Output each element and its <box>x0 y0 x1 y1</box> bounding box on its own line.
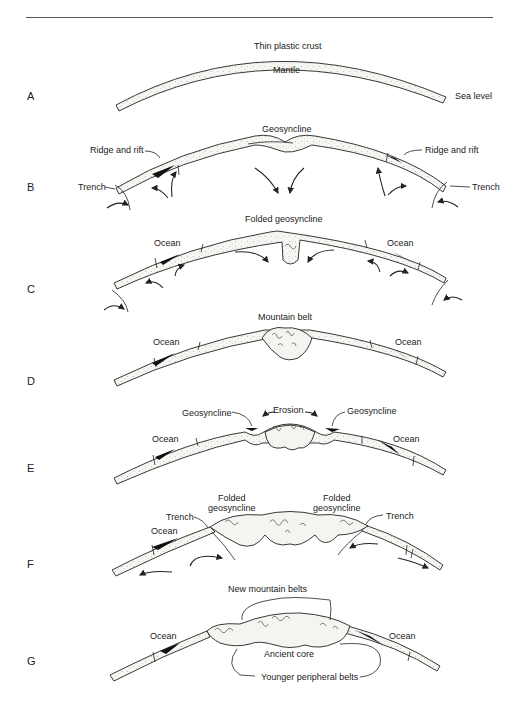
mountain-belt <box>207 613 350 648</box>
mantle-current-arrow <box>146 282 163 288</box>
plate-tectonics-diagram: A Thin plastic crust Mantle Sea level B … <box>0 0 532 711</box>
label-folded-geosyncline: Folded geosyncline <box>245 214 323 224</box>
label-folded-left-2: geosyncline <box>208 503 256 513</box>
panel-letter-g: G <box>27 655 36 667</box>
label-trench-right: Trench <box>472 182 500 192</box>
crust-band <box>362 525 443 570</box>
label-geosyncline-left: Geosyncline <box>182 408 232 418</box>
leader-line <box>232 412 252 426</box>
label-mountain-belt: Mountain belt <box>258 312 313 322</box>
leader-line <box>332 412 345 426</box>
leader-line <box>105 187 115 189</box>
mantle-current-arrow <box>388 186 406 195</box>
geosyncline-deposit <box>325 428 340 432</box>
mantle-current-arrow <box>172 172 177 197</box>
panel-letter-e: E <box>27 462 34 474</box>
geosyncline-deposit <box>245 428 258 431</box>
leader-line <box>366 515 383 524</box>
panel-a: A Thin plastic crust Mantle Sea level <box>27 41 492 111</box>
panel-letter-c: C <box>27 283 35 295</box>
leader-line <box>404 150 422 155</box>
mantle-current-arrow <box>444 297 462 300</box>
trench-line <box>432 280 448 305</box>
mantle-current-arrow <box>104 306 124 310</box>
panel-f: F Folded geosyncline Folded geosyncline … <box>27 493 443 576</box>
label-ocean-right: Ocean <box>395 337 422 347</box>
mountain-belt <box>265 425 315 450</box>
mantle-current-arrow <box>152 188 168 198</box>
label-thin-plastic-crust: Thin plastic crust <box>254 41 322 51</box>
panel-letter-d: D <box>27 375 35 387</box>
leader-line <box>145 151 160 158</box>
mantle-current-arrow <box>140 571 172 575</box>
panel-g: G New mountain belts Ocean Ocean Ancient… <box>27 584 440 682</box>
label-ancient-core: Ancient core <box>264 649 314 659</box>
label-erosion: Erosion <box>273 405 304 415</box>
label-geosyncline: Geosyncline <box>262 124 312 134</box>
label-trench-left: Trench <box>166 512 194 522</box>
leader-line <box>450 186 470 187</box>
mantle-current-arrow <box>368 261 380 272</box>
label-folded-right-1: Folded <box>323 493 351 503</box>
label-ocean-left: Ocean <box>153 337 180 347</box>
panel-d: D Mountain belt Ocean Ocean <box>27 312 446 387</box>
mantle-current-arrow <box>235 252 268 262</box>
mantle-current-arrow <box>438 201 458 207</box>
label-sea-level: Sea level <box>455 91 492 101</box>
label-ocean-right: Ocean <box>387 238 414 248</box>
trench-line <box>112 290 128 312</box>
panel-b: B Geosyncline Ridge and rift Ridge and r… <box>27 124 500 210</box>
label-younger-peripheral-belts: Younger peripheral belts <box>261 672 359 682</box>
mantle-current-arrow <box>190 556 222 566</box>
mantle-current-arrow <box>350 544 378 549</box>
panel-c: C Folded geosyncline Ocean Ocean <box>27 214 462 312</box>
mountain-belt <box>210 512 368 547</box>
label-ocean-left: Ocean <box>154 238 181 248</box>
label-mantle: Mantle <box>273 65 300 75</box>
label-ocean-left: Ocean <box>152 434 179 444</box>
mantle-current-arrow <box>290 168 304 193</box>
label-ocean-right: Ocean <box>393 434 420 444</box>
label-trench-right: Trench <box>386 511 414 521</box>
mantle-current-arrow <box>107 203 128 208</box>
label-folded-right-2: geosyncline <box>313 503 361 513</box>
mantle-current-arrow <box>308 250 334 262</box>
erosion-arrow <box>305 412 317 416</box>
panel-letter-a: A <box>27 90 35 102</box>
label-trench-left: Trench <box>78 182 106 192</box>
label-folded-left-1: Folded <box>218 493 246 503</box>
label-new-mountain-belts: New mountain belts <box>228 584 308 594</box>
label-ridge-and-rift-right: Ridge and rift <box>425 145 479 155</box>
mantle-current-arrow <box>175 265 184 276</box>
label-ocean-left: Ocean <box>151 526 178 536</box>
panel-letter-f: F <box>27 558 34 570</box>
panel-letter-b: B <box>27 181 34 193</box>
mountain-belt <box>262 327 312 359</box>
mantle-current-arrow <box>378 168 385 196</box>
panel-e: E Geosyncline Erosion Geosyncline Ocean … <box>27 405 446 484</box>
label-geosyncline-right: Geosyncline <box>347 406 397 416</box>
mantle-current-arrow <box>390 271 408 276</box>
leader-line <box>194 517 208 528</box>
label-ocean-right: Ocean <box>389 631 416 641</box>
leader-bracket <box>232 649 255 676</box>
label-ridge-and-rift-left: Ridge and rift <box>90 145 144 155</box>
crust-band <box>116 135 446 194</box>
mantle-current-arrow <box>255 168 278 193</box>
label-ocean-left: Ocean <box>150 631 177 641</box>
